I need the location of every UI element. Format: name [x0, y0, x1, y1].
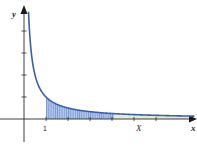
upper-limit-label: X — [135, 123, 142, 133]
x-axis-label: x — [190, 123, 196, 133]
y-axis-arrow-icon — [21, 5, 28, 14]
tick-label-one: 1 — [43, 125, 47, 132]
y-axis-label: y — [11, 9, 17, 19]
hyperbola-area-diagram: y x X 1 — [0, 0, 197, 146]
hyperbola-curve — [29, 12, 195, 116]
shaded-area-region — [46, 97, 114, 119]
